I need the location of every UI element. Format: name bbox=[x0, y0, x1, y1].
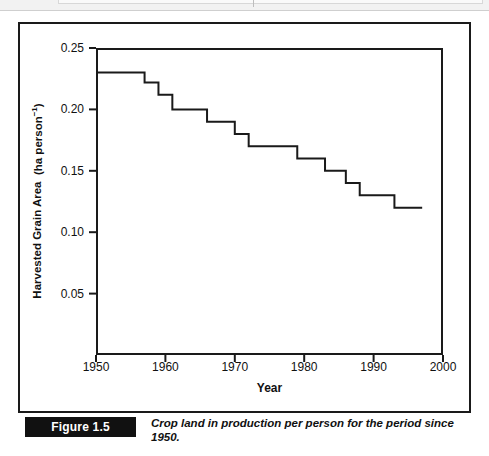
y-tick-label: 0.25 bbox=[38, 41, 84, 55]
x-tick-label: 1980 bbox=[274, 360, 334, 374]
x-tick-label: 1960 bbox=[135, 360, 195, 374]
toolbar-inner-edge bbox=[58, 0, 483, 4]
toolbar-tick-mark bbox=[253, 0, 254, 7]
y-tick-label: 0.10 bbox=[38, 225, 84, 239]
figure-caption-row: Figure 1.5 Crop land in production per p… bbox=[25, 417, 465, 456]
y-tick-label: 0.15 bbox=[38, 164, 84, 178]
x-axis-tick-labels: 195019601970198019902000 bbox=[0, 360, 489, 378]
figure-number-badge: Figure 1.5 bbox=[25, 417, 136, 437]
figure-caption-text: Crop land in production per person for t… bbox=[151, 416, 461, 444]
x-axis-title: Year bbox=[96, 381, 443, 395]
y-axis-tick-labels: 0.050.100.150.200.25 bbox=[38, 0, 84, 456]
y-tick-label: 0.05 bbox=[38, 287, 84, 301]
x-tick-label: 1970 bbox=[205, 360, 265, 374]
x-tick-label: 2000 bbox=[413, 360, 473, 374]
y-tick-label: 0.20 bbox=[38, 102, 84, 116]
x-tick-label: 1990 bbox=[344, 360, 404, 374]
plot-area bbox=[96, 48, 443, 355]
x-tick-label: 1950 bbox=[66, 360, 126, 374]
